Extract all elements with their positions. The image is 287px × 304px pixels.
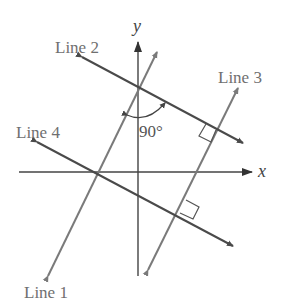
perpendicular-lines-diagram: x y 90° Line 2 Line 3 Line 4 Line 1 [0,0,287,304]
x-axis-label: x [257,161,266,181]
line-1 [48,52,157,276]
angle-label: 90° [139,122,163,141]
line-3-label: Line 3 [218,68,262,87]
right-angle-marker-bottom [180,200,199,219]
line-2-label: Line 2 [55,38,99,57]
angle-arc [127,103,165,118]
line-4-label: Line 4 [16,123,60,142]
line-1-label: Line 1 [24,283,68,302]
y-axis-label: y [131,16,141,36]
